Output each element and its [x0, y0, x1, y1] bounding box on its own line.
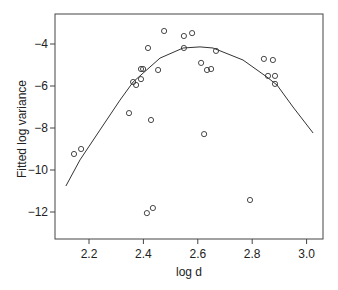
data-point: [148, 117, 153, 122]
data-point: [181, 33, 186, 38]
y-tick-label: −4: [34, 37, 48, 51]
data-point: [261, 56, 266, 61]
data-point: [134, 82, 139, 87]
fitted-curve: [66, 47, 313, 186]
y-axis-label: Fitted log variance: [15, 80, 29, 178]
x-tick-label: 3.0: [298, 247, 315, 261]
data-point: [199, 60, 204, 65]
y-tick-label: −10: [28, 163, 49, 177]
data-point: [190, 30, 195, 35]
data-point: [247, 197, 252, 202]
scatter-chart: −4−6−8−10−12 2.22.42.62.83.0 log d Fitte…: [0, 0, 338, 290]
y-axis: −4−6−8−10−12: [28, 37, 55, 219]
y-tick-label: −8: [34, 121, 48, 135]
data-point: [145, 45, 150, 50]
x-tick-label: 2.6: [189, 247, 206, 261]
data-point: [150, 205, 155, 210]
x-tick-label: 2.4: [135, 247, 152, 261]
data-point: [79, 146, 84, 151]
data-point: [202, 132, 207, 137]
x-tick-label: 2.2: [81, 247, 98, 261]
data-point: [71, 151, 76, 156]
data-point: [270, 57, 275, 62]
data-point: [162, 28, 167, 33]
data-points: [71, 28, 277, 215]
data-point: [144, 211, 149, 216]
x-axis: 2.22.42.62.83.0: [81, 239, 316, 261]
data-point: [126, 111, 131, 116]
x-tick-label: 2.8: [244, 247, 261, 261]
x-axis-label: log d: [176, 265, 202, 279]
data-point: [138, 77, 143, 82]
y-tick-label: −6: [34, 79, 48, 93]
data-point: [156, 67, 161, 72]
data-point: [272, 73, 277, 78]
y-tick-label: −12: [28, 205, 49, 219]
